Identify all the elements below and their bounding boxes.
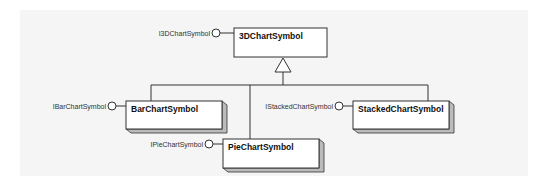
uml-diagram: 3DChartSymbol I3DChartSymbol BarChartSym…: [0, 0, 549, 187]
interface-name: IBarChartSymbol: [53, 103, 107, 111]
interface-lollipop-icon: [335, 102, 343, 110]
interface-name: I3DChartSymbol: [159, 30, 211, 38]
interface-lollipop-icon: [205, 140, 213, 148]
interface-name: IStackedChartSymbol: [265, 103, 333, 111]
class-name: PieChartSymbol: [228, 142, 294, 152]
interface-lollipop-icon: [212, 29, 220, 37]
interface-lollipop-icon: [108, 102, 116, 110]
class-3dchartsymbol[interactable]: 3DChartSymbol I3DChartSymbol: [159, 28, 327, 57]
class-barchartsymbol[interactable]: BarChartSymbol IBarChartSymbol: [53, 101, 227, 133]
interface-name: IPieChartSymbol: [150, 141, 203, 149]
class-stackedchartsymbol[interactable]: StackedChartSymbol IStackedChartSymbol: [265, 101, 454, 133]
class-piechartsymbol[interactable]: PieChartSymbol IPieChartSymbol: [150, 139, 324, 172]
class-name: BarChartSymbol: [131, 104, 198, 114]
class-name: 3DChartSymbol: [239, 31, 303, 41]
generalization-arrow-icon: [275, 58, 291, 72]
class-name: StackedChartSymbol: [358, 104, 444, 114]
